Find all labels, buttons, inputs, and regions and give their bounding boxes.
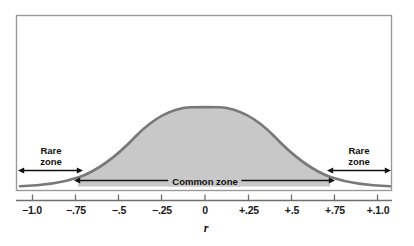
x-tick-label-pos-1-0: +.1.0 (367, 204, 390, 216)
x-tick-label-pos-0-5: +.5 (285, 204, 299, 216)
x-tick-label-neg-0-25: −.25 (152, 204, 172, 216)
rare-zone-left-label: Rare zone (40, 146, 62, 167)
x-tick-label-pos-0-25: +.25 (239, 204, 259, 216)
x-tick-label-neg-0-75: −.75 (66, 204, 86, 216)
x-axis-title: r (204, 221, 209, 236)
x-tick-label-zero: 0 (202, 204, 208, 216)
rare-zone-left-label-line1: Rare (40, 146, 62, 157)
x-tick-label-neg-1-0: −1.0 (22, 204, 42, 216)
x-tick-label-pos-0-75: +.75 (325, 204, 345, 216)
x-tick-label-neg-0-5: −.5 (112, 204, 126, 216)
rare-zone-right-label-line2: zone (348, 157, 370, 168)
rare-zone-left-label-line2: zone (40, 157, 62, 168)
rare-zone-right-label-line1: Rare (348, 146, 370, 157)
common-zone-label: Common zone (168, 176, 241, 187)
correlation-sampling-distribution-figure: Rare zone Rare zone Common zone −1.0 −.7… (0, 0, 414, 246)
x-axis-ticks (33, 195, 378, 201)
rare-zone-right-label: Rare zone (348, 146, 370, 167)
